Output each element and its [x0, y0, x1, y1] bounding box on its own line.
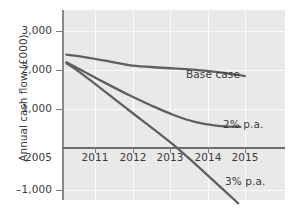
series-label-2pct: 2% p.a.: [223, 118, 263, 130]
cash-flow-line-chart: 3,000 2,000 1,000 2005 –1,000 2011 2012 …: [0, 0, 297, 216]
series-label-3pct: 3% p.a.: [225, 175, 265, 187]
series-label-base-case: Base case: [186, 68, 240, 80]
series-line-3pct: [66, 63, 238, 203]
